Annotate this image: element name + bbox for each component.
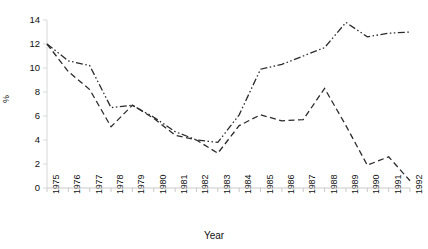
line-chart: % Year 02468101214 197519761977197819791… bbox=[0, 0, 428, 249]
series-line-dashed bbox=[47, 44, 410, 181]
plot-area bbox=[0, 0, 428, 249]
series-line-dash-dot bbox=[47, 22, 410, 142]
